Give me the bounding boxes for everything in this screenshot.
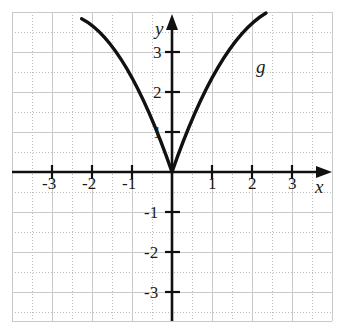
x-tick-label: -3	[42, 175, 56, 192]
y-tick-label: -1	[144, 204, 158, 221]
x-tick-label: 3	[288, 175, 297, 192]
y-tick-label: -3	[144, 284, 158, 301]
x-axis-label: x	[315, 177, 323, 196]
y-tick-label: 1	[153, 124, 162, 141]
curve-label-g: g	[256, 57, 266, 76]
x-tick-label: 2	[248, 175, 257, 192]
x-tick-label: -2	[82, 175, 96, 192]
y-tick-label: 3	[153, 44, 162, 61]
y-tick-label: 2	[153, 84, 162, 101]
coordinate-plane	[0, 0, 342, 333]
x-tick-label: 1	[208, 175, 217, 192]
x-tick-label: -1	[122, 175, 136, 192]
y-axis-label: y	[155, 19, 163, 38]
graph-figure: -3 -2 -1 1 2 3 3 2 1 -1 -2 -3 y x g	[0, 0, 342, 333]
y-tick-label: -2	[144, 244, 158, 261]
